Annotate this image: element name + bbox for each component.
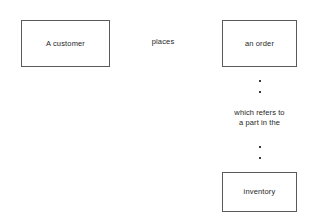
entity-label-customer: A customer [46,40,85,48]
connector-dot-3 [259,146,261,148]
entity-box-customer[interactable]: A customer [21,20,110,67]
relationship-label-refers-line1: which refers to [215,108,304,118]
relationship-label-places: places [140,38,186,46]
entity-box-inventory[interactable]: inventory [222,172,297,212]
diagram-canvas: A customer places an order which refers … [0,0,311,218]
connector-dot-2 [259,91,261,93]
entity-box-order[interactable]: an order [222,20,297,67]
connector-dot-4 [259,157,261,159]
connector-dot-1 [259,80,261,82]
entity-label-inventory: inventory [244,188,276,196]
relationship-label-refers: which refers to a part in the [215,108,304,127]
relationship-label-refers-line2: a part in the [215,118,304,128]
entity-label-order: an order [245,40,274,48]
